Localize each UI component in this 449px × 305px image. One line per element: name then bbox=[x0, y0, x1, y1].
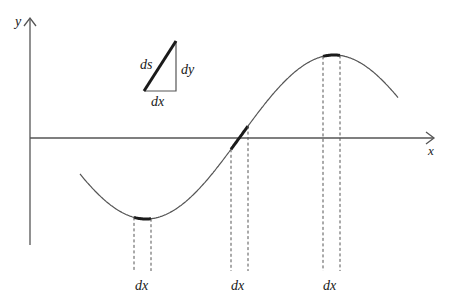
interval-zero-crossing: dx bbox=[231, 126, 248, 293]
interval-maximum: dx bbox=[323, 55, 340, 293]
ds-segment-minimum bbox=[134, 217, 151, 219]
dx-label-triangle: dx bbox=[151, 94, 165, 109]
interval-minimum: dx bbox=[134, 217, 151, 293]
axes: y x bbox=[13, 14, 434, 245]
arc-length-diagram: y x ds dy dx dx dx dx bbox=[0, 0, 449, 305]
ds-segment-maximum bbox=[323, 55, 340, 56]
dx-label-zero-crossing: dx bbox=[231, 278, 245, 293]
dx-label-minimum: dx bbox=[135, 278, 149, 293]
x-axis-label: x bbox=[427, 143, 434, 158]
y-axis-label: y bbox=[13, 14, 22, 29]
ds-label: ds bbox=[140, 57, 153, 72]
dx-label-maximum: dx bbox=[323, 278, 337, 293]
dy-label: dy bbox=[181, 62, 195, 77]
differential-triangle: ds dy dx bbox=[140, 41, 195, 109]
